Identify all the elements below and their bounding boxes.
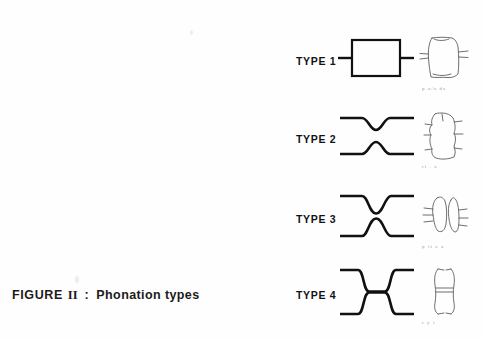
glottis-sketch-type-3: [418, 188, 470, 244]
sketch-caption-type-3: p it z a: [422, 244, 444, 249]
aperture-diagram-type-4: [340, 262, 414, 322]
caption-subject: Phonation types: [96, 288, 199, 302]
sketch-caption-type-1: p a/a dz: [422, 86, 446, 91]
type-label-1: TYPE 1: [296, 55, 336, 67]
sketch-caption-type-4: r y i: [422, 320, 436, 325]
figure-caption: FIGURE II : Phonation types: [12, 288, 200, 303]
phonation-row-type-1: TYPE 1 p a/a dz: [296, 28, 482, 104]
type-label-2: TYPE 2: [296, 133, 336, 145]
phonation-row-type-2: TYPE 2 ri . a: [296, 106, 482, 182]
sketch-caption-type-2: ri . a: [422, 164, 438, 169]
caption-prefix: FIGURE: [12, 288, 63, 302]
phonation-row-type-3: TYPE 3 p it z a: [296, 186, 482, 262]
caption-separator: :: [83, 288, 92, 302]
aperture-diagram-type-1: [340, 28, 414, 88]
scan-speck: [75, 276, 79, 283]
type-label-3: TYPE 3: [296, 213, 336, 225]
figure-page: TYPE 1 p a/a dz TYPE 2: [0, 0, 483, 340]
phonation-row-type-4: TYPE 4 r y i: [296, 262, 482, 338]
scan-speck: [190, 30, 193, 35]
aperture-diagram-type-2: [340, 106, 414, 166]
glottis-sketch-type-2: [418, 108, 470, 164]
glottis-sketch-type-1: [418, 30, 470, 86]
type-label-4: TYPE 4: [296, 289, 336, 301]
glottis-sketch-type-4: [418, 264, 470, 320]
aperture-diagram-type-3: [340, 186, 414, 246]
caption-numeral: II: [68, 288, 78, 303]
